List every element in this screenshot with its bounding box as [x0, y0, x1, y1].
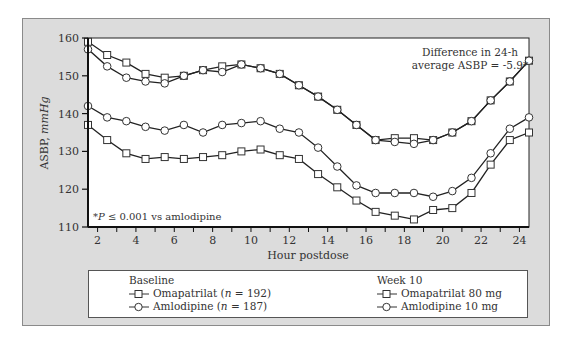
x-tick-label: 14 — [321, 234, 335, 247]
circle-marker-icon — [199, 129, 207, 137]
legend-group-baseline: Baseline Omapatrilat (n = 192) Amlodipin… — [129, 274, 271, 313]
square-marker-icon — [526, 129, 533, 136]
y-tick-label: 130 — [58, 145, 79, 158]
circle-marker-icon — [295, 81, 303, 89]
circle-marker-icon — [391, 138, 399, 146]
circle-marker-icon — [487, 97, 495, 105]
circle-marker-icon — [353, 121, 361, 129]
x-tick-label: 12 — [282, 234, 296, 247]
legend-label: Amlodipine (n = 187) — [153, 300, 267, 313]
circle-marker-icon — [103, 63, 111, 71]
circle-marker-icon — [123, 74, 131, 82]
circle-marker-icon — [257, 64, 265, 72]
y-tick-label: 160 — [58, 32, 79, 45]
circle-marker-icon — [410, 189, 418, 197]
square-marker-icon — [372, 208, 379, 215]
y-tick-label: 110 — [58, 221, 79, 234]
square-marker-icon — [353, 197, 360, 204]
square-marker-icon — [200, 154, 207, 161]
square-marker-icon — [391, 212, 398, 219]
square-marker-icon — [449, 205, 456, 212]
x-tick-label: 10 — [244, 234, 258, 247]
circle-marker-icon — [353, 182, 361, 190]
legend-label: Omapatrilat 80 mg — [401, 287, 502, 300]
square-marker-icon — [123, 59, 130, 66]
y-tick-label: 120 — [58, 183, 79, 196]
circle-marker-icon — [276, 70, 284, 78]
circle-marker-icon — [410, 140, 418, 148]
circle-marker-icon — [276, 125, 284, 133]
circle-marker-icon — [468, 117, 476, 125]
x-tick-label: 22 — [474, 234, 488, 247]
circle-marker-icon — [180, 72, 188, 80]
circle-marker-icon — [525, 114, 533, 122]
legend-label: Omapatrilat (n = 192) — [153, 287, 271, 300]
square-marker-icon — [142, 70, 149, 77]
x-tick-label: 24 — [512, 234, 526, 247]
circle-marker-icon — [506, 78, 514, 86]
square-marker-icon — [219, 152, 226, 159]
circle-marker-icon — [468, 174, 476, 182]
legend-label: Amlodipine 10 mg — [401, 300, 498, 313]
x-tick-label: 2 — [94, 234, 101, 247]
square-marker-icon — [315, 171, 322, 178]
circle-marker-icon — [180, 121, 188, 129]
legend-item-omapatrilat-week10: Omapatrilat 80 mg — [377, 287, 502, 300]
square-marker-icon — [238, 148, 245, 155]
circle-marker-icon — [314, 144, 322, 152]
legend-item-omapatrilat-baseline: Omapatrilat (n = 192) — [129, 287, 271, 300]
square-marker-icon — [257, 146, 264, 153]
circle-marker-icon — [506, 125, 514, 133]
square-marker-icon — [180, 155, 187, 162]
x-tick-label: 20 — [436, 234, 450, 247]
square-marker-icon — [104, 52, 111, 59]
square-marker-icon — [295, 155, 302, 162]
square-marker-icon — [276, 152, 283, 159]
legend-item-amlodipine-week10: Amlodipine 10 mg — [377, 300, 502, 313]
circle-marker-icon — [449, 129, 457, 137]
circle-marker-icon — [372, 136, 380, 144]
circle-marker-icon — [333, 163, 341, 171]
square-marker-icon — [468, 189, 475, 196]
square-marker-icon — [377, 289, 397, 299]
x-tick-label: 6 — [171, 234, 178, 247]
x-tick-label: 4 — [132, 234, 139, 247]
circle-marker-icon — [449, 187, 457, 195]
y-tick-label: 140 — [58, 108, 79, 121]
square-marker-icon — [506, 137, 513, 144]
legend-item-amlodipine-baseline: Amlodipine (n = 187) — [129, 300, 271, 313]
circle-marker-icon — [391, 189, 399, 197]
square-marker-icon — [123, 150, 130, 157]
y-axis-label: ASBP, mmHg — [38, 96, 51, 170]
legend: Baseline Omapatrilat (n = 192) Amlodipin… — [88, 270, 528, 318]
circle-marker-icon — [129, 302, 149, 312]
circle-marker-icon — [142, 123, 150, 131]
circle-marker-icon — [372, 189, 380, 197]
square-marker-icon — [487, 161, 494, 168]
square-marker-icon — [334, 184, 341, 191]
square-marker-icon — [104, 137, 111, 144]
circle-marker-icon — [123, 117, 131, 125]
circle-marker-icon — [199, 66, 207, 74]
circle-marker-icon — [103, 114, 111, 122]
x-tick-label: 16 — [359, 234, 373, 247]
circle-marker-icon — [314, 93, 322, 101]
legend-group-week10: Week 10 Omapatrilat 80 mg Amlodipine 10 … — [377, 274, 502, 313]
annotation-difference-line1: Difference in 24-h — [422, 46, 518, 58]
square-marker-icon — [161, 154, 168, 161]
circle-marker-icon — [238, 119, 246, 127]
circle-marker-icon — [429, 193, 437, 201]
circle-marker-icon — [377, 302, 397, 312]
circle-marker-icon — [487, 149, 495, 157]
circle-marker-icon — [218, 121, 226, 129]
x-axis-label: Hour postdose — [267, 249, 349, 262]
x-tick-label: 18 — [397, 234, 411, 247]
square-marker-icon — [430, 206, 437, 213]
circle-marker-icon — [429, 136, 437, 144]
circle-marker-icon — [333, 106, 341, 114]
legend-title-week10: Week 10 — [377, 274, 502, 287]
annotation-difference-line2: average ASBP = -5.9* — [412, 59, 529, 71]
circle-marker-icon — [238, 61, 246, 69]
square-marker-icon — [129, 289, 149, 299]
square-marker-icon — [410, 216, 417, 223]
